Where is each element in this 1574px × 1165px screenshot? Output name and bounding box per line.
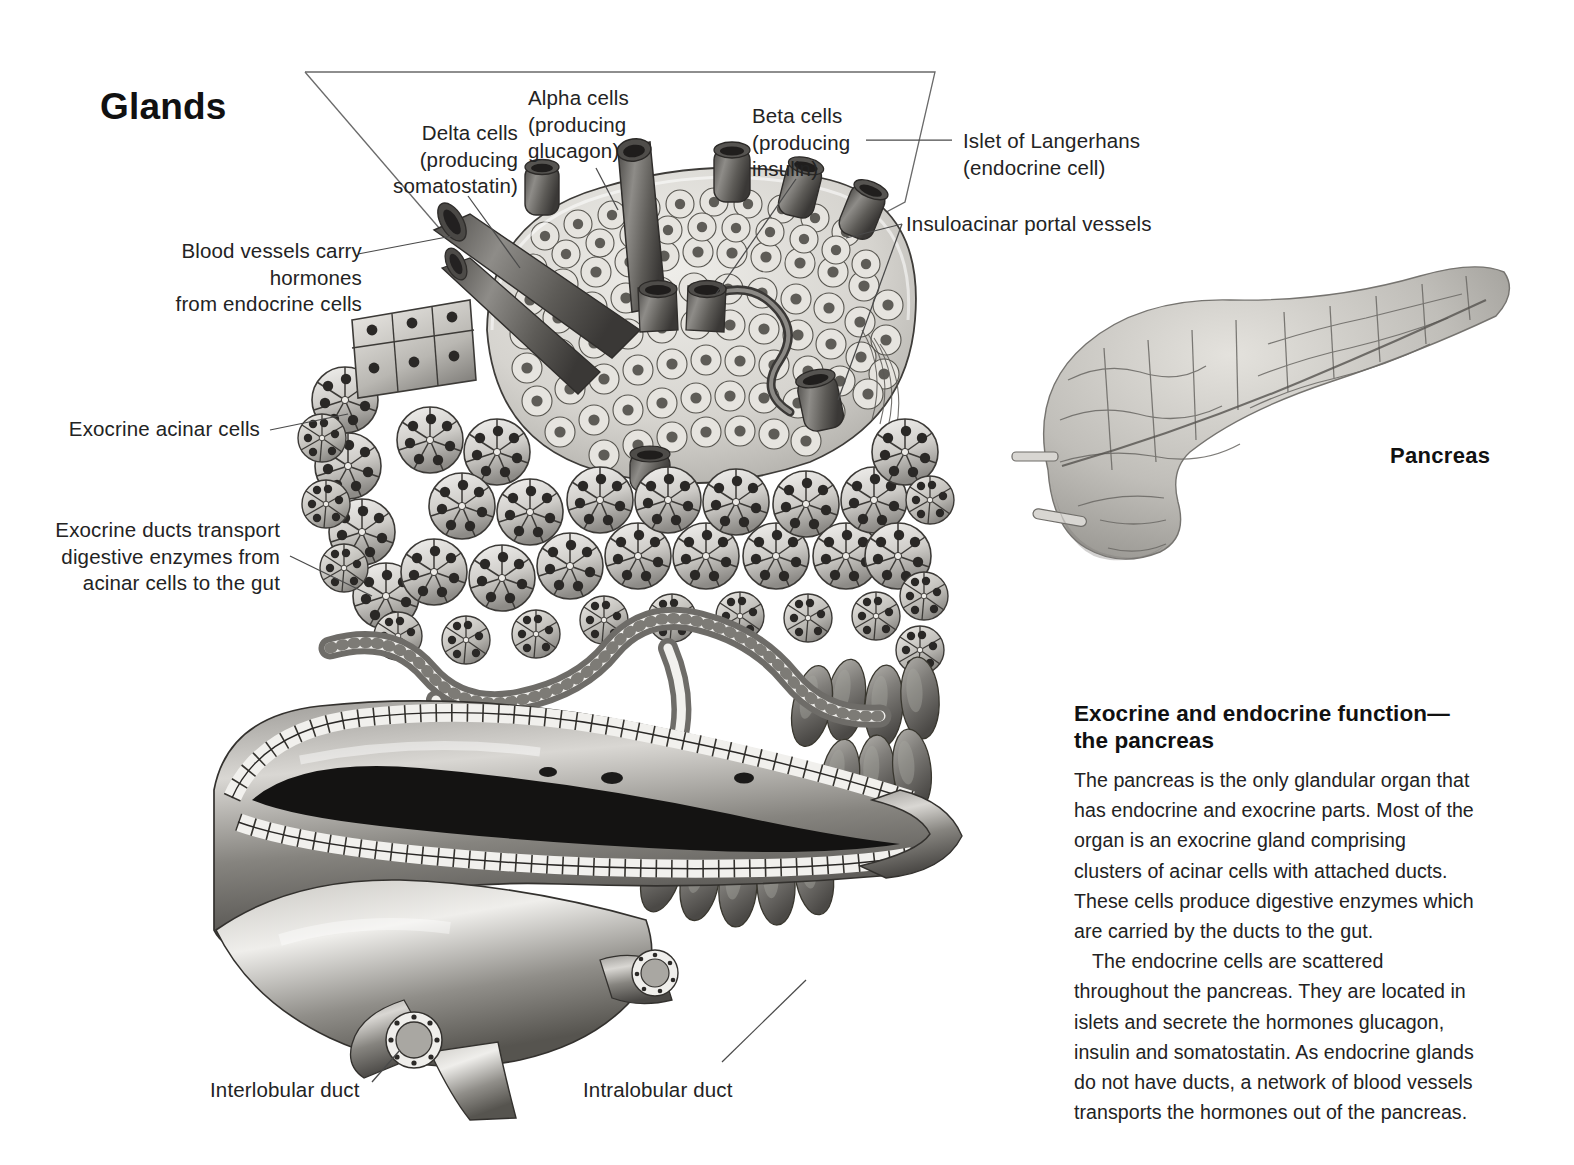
- label-exocrine-acinar-cells: Exocrine acinar cells: [60, 416, 260, 443]
- leader-lines: [270, 140, 952, 1082]
- islet-of-langerhans-graphic: [487, 168, 916, 483]
- label-intralobular-duct: Intralobular duct: [583, 1077, 783, 1104]
- label-alpha-cells: Alpha cells (producing glucagon): [528, 85, 664, 165]
- label-exocrine-ducts: Exocrine ducts transport digestive enzym…: [46, 517, 280, 597]
- label-beta-cells: Beta cells (producing insulin): [752, 103, 872, 183]
- article-block: Exocrine and endocrine function—the panc…: [1074, 700, 1474, 1127]
- interlobular-duct-graphic: [214, 701, 962, 1120]
- article-paragraph-2: The endocrine cells are scattered throug…: [1074, 946, 1474, 1127]
- page-title: Glands: [100, 86, 227, 128]
- pancreas-organ-inset: [1012, 267, 1509, 560]
- interlobular-duct-cross-section: [351, 1000, 443, 1078]
- label-insuloacinar-portal-vessels: Insuloacinar portal vessels: [906, 211, 1206, 238]
- article-paragraph-1: The pancreas is the only glandular organ…: [1074, 765, 1474, 946]
- label-interlobular-duct: Interlobular duct: [210, 1077, 410, 1104]
- exocrine-acinar-cells-graphic: [298, 300, 954, 928]
- exocrine-duct-branches-graphic: [330, 618, 880, 852]
- intralobular-duct-cross-section: [600, 950, 678, 1004]
- article-heading: Exocrine and endocrine function—the panc…: [1074, 700, 1474, 754]
- label-pancreas-organ: Pancreas: [1390, 443, 1490, 469]
- label-delta-cells: Delta cells (producing somatostatin): [390, 120, 518, 200]
- label-islet-of-langerhans: Islet of Langerhans (endocrine cell): [963, 128, 1193, 181]
- illustration-page: Glands Blood vessels carry hormones from…: [0, 0, 1574, 1165]
- label-blood-vessels: Blood vessels carry hormones from endocr…: [94, 238, 362, 318]
